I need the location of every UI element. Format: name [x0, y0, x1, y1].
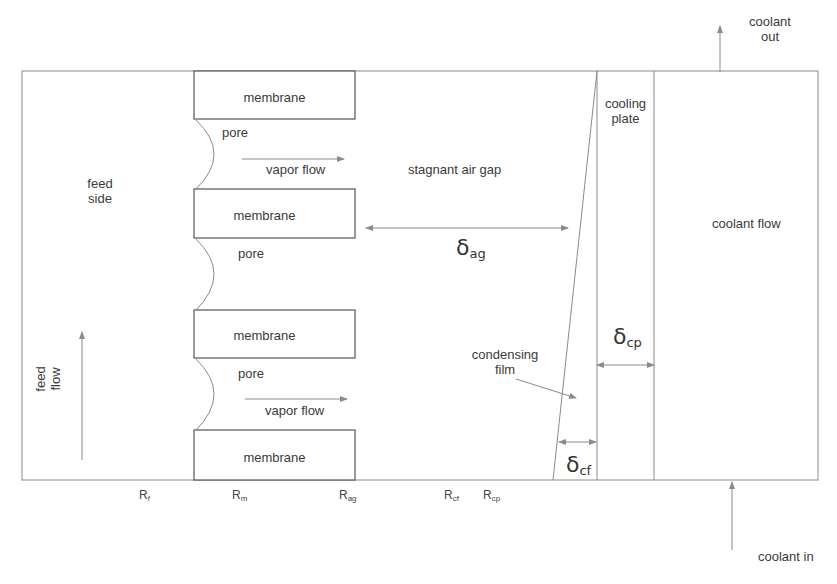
- vapor-flow-label-2: vapor flow: [265, 403, 324, 418]
- air-gap-thickness-symbol: δag: [456, 236, 486, 266]
- cooling-plate-line-1: cooling: [597, 96, 654, 111]
- resistance-cooling-plate: Rcp: [483, 488, 500, 503]
- feed-side-line-2: side: [80, 191, 120, 206]
- coolant-flow-label: coolant flow: [712, 216, 781, 231]
- pore-label-1: pore: [222, 125, 248, 140]
- condensing-film-line-1: condensing: [465, 347, 545, 362]
- membrane-label-1: membrane: [194, 90, 355, 105]
- air-gap-label: stagnant air gap: [408, 162, 501, 177]
- pore-label-2: pore: [238, 246, 264, 261]
- feed-flow-label: feed flow: [33, 359, 63, 399]
- diagram-canvas: [0, 0, 837, 584]
- pore-meniscus-1: [196, 120, 214, 189]
- pore-meniscus-2: [196, 239, 214, 310]
- condensing-film-label: condensing film: [465, 347, 545, 377]
- condensing-film-line-2: film: [465, 362, 545, 377]
- condensing-film-thickness-symbol: δcf: [566, 453, 591, 483]
- resistance-membrane: Rm: [232, 488, 247, 503]
- vapor-flow-label-1: vapor flow: [266, 162, 325, 177]
- module-boundary: [22, 71, 818, 480]
- coolant-out-label: coolant out: [740, 14, 800, 44]
- condensing-film-edge: [553, 71, 597, 480]
- membrane-label-4: membrane: [194, 450, 355, 465]
- membrane-label-2: membrane: [184, 208, 345, 223]
- resistance-air-gap: Rag: [339, 488, 357, 503]
- condensing-film-pointer: [516, 379, 576, 398]
- feed-flow-line-2: flow: [48, 359, 63, 399]
- cooling-plate-line-2: plate: [597, 111, 654, 126]
- cooling-plate-thickness-symbol: δcp: [613, 325, 642, 355]
- pore-meniscus-3: [196, 359, 214, 430]
- feed-side-line-1: feed: [80, 176, 120, 191]
- coolant-in-label: coolant in: [758, 549, 814, 564]
- feed-flow-line-1: feed: [33, 359, 48, 399]
- resistance-feed: Rf: [139, 488, 150, 503]
- membrane-label-3: membrane: [184, 328, 345, 343]
- pore-label-3: pore: [238, 366, 264, 381]
- coolant-out-line-1: coolant: [740, 14, 800, 29]
- cooling-plate-label: cooling plate: [597, 96, 654, 126]
- resistance-condensing-film: Rcf: [444, 488, 459, 503]
- coolant-out-line-2: out: [740, 29, 800, 44]
- feed-side-label: feed side: [80, 176, 120, 206]
